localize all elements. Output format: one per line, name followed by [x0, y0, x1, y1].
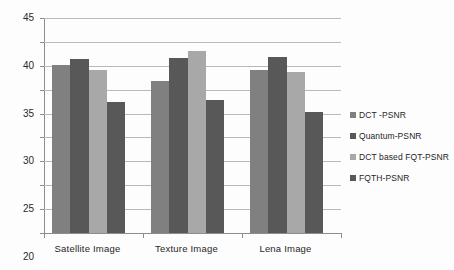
legend-label: Quantum-PSNR — [359, 131, 422, 141]
legend-swatch-icon — [350, 175, 356, 181]
legend-label: FQTH-PSNR — [359, 173, 409, 183]
legend-item[interactable]: DCT based FQT-PSNR — [350, 146, 454, 167]
bar — [52, 65, 70, 233]
bar — [169, 58, 187, 233]
legend-item[interactable]: DCT -PSNR — [350, 104, 454, 125]
bar — [287, 72, 305, 233]
x-axis-category-label: Satellite Image — [38, 243, 138, 254]
legend-swatch-icon — [350, 112, 356, 118]
y-axis-tick-label: 45 — [23, 13, 34, 23]
legend-item[interactable]: Quantum-PSNR — [350, 125, 454, 146]
x-axis-separator-tick — [341, 233, 342, 238]
bar — [206, 100, 224, 233]
legend-item[interactable]: FQTH-PSNR — [350, 167, 454, 188]
bar — [70, 59, 88, 233]
x-axis-separator-tick — [143, 233, 144, 238]
y-axis-tick-label: 30 — [23, 156, 34, 166]
bar — [250, 70, 268, 233]
y-axis-tick-label: 35 — [23, 109, 34, 119]
bar — [89, 70, 107, 233]
bar — [305, 112, 323, 233]
y-axis-tick-label: 25 — [23, 204, 34, 214]
bar — [151, 81, 169, 233]
bar-chart: 051015202530354045 Satellite ImageTextur… — [0, 0, 454, 270]
legend-swatch-icon — [350, 154, 356, 160]
x-axis-separator-tick — [44, 233, 45, 238]
plot-area: 051015202530354045 — [44, 18, 341, 233]
legend-swatch-icon — [350, 133, 356, 139]
x-axis-category-label: Lena Image — [236, 243, 336, 254]
legend-label: DCT based FQT-PSNR — [359, 152, 449, 162]
x-axis-category-label: Texture Image — [137, 243, 237, 254]
bar — [188, 51, 206, 233]
y-axis-tick-label: 20 — [23, 252, 34, 262]
bars-layer — [44, 18, 341, 233]
legend-label: DCT -PSNR — [359, 110, 406, 120]
gridline — [44, 233, 341, 234]
x-axis-separator-tick — [242, 233, 243, 238]
y-axis-tick-label: 40 — [23, 61, 34, 71]
legend: DCT -PSNRQuantum-PSNRDCT based FQT-PSNRF… — [350, 104, 454, 188]
bar — [268, 57, 286, 233]
bar — [107, 102, 125, 233]
